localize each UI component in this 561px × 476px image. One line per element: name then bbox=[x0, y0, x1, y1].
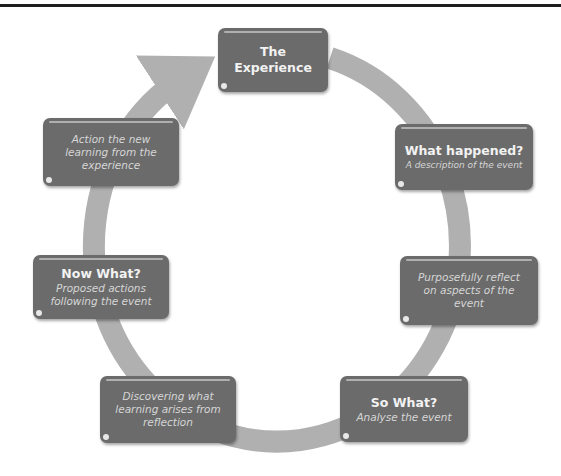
node-purposefully-reflect: Purposefully reflect on aspects of the e… bbox=[400, 256, 538, 325]
node-action-new-learning: Action the new learning from the experie… bbox=[43, 118, 179, 186]
node-title: What happened? bbox=[405, 143, 524, 159]
node-now-what: Now What? Proposed actions following the… bbox=[33, 255, 169, 319]
node-subtitle: Analyse the event bbox=[356, 411, 451, 424]
node-subtitle: A description of the event bbox=[406, 159, 523, 172]
node-subtitle: Discovering what learning arises from re… bbox=[112, 390, 224, 429]
node-the-experience: The Experience bbox=[218, 28, 328, 92]
node-what-happened: What happened? A description of the even… bbox=[395, 124, 533, 190]
node-title: Now What? bbox=[61, 266, 140, 282]
node-subtitle: Purposefully reflect on aspects of the e… bbox=[414, 271, 524, 310]
node-subtitle: Proposed actions following the event bbox=[45, 282, 157, 308]
node-title: The Experience bbox=[224, 44, 322, 76]
node-title: So What? bbox=[371, 395, 437, 411]
node-subtitle: Action the new learning from the experie… bbox=[59, 133, 163, 172]
node-so-what: So What? Analyse the event bbox=[340, 376, 468, 442]
node-discovering: Discovering what learning arises from re… bbox=[100, 376, 236, 443]
